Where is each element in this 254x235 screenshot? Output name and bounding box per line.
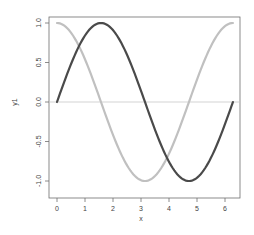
x-axis-title: x: [139, 215, 143, 222]
x-tick-label: 3: [139, 205, 143, 212]
y-axis-ticks: -1.0-0.50.00.51.0: [35, 18, 49, 187]
x-tick-label: 4: [167, 205, 171, 212]
x-tick-label: 2: [111, 205, 115, 212]
y-tick-label: -0.5: [35, 135, 42, 147]
line-chart: 0123456 -1.0-0.50.00.51.0 x y1: [0, 0, 254, 235]
x-axis-ticks: 0123456: [55, 198, 227, 212]
y-tick-label: 1.0: [35, 18, 42, 28]
x-tick-label: 5: [195, 205, 199, 212]
y-tick-label: 0.5: [35, 58, 42, 68]
y-tick-label: 0.0: [35, 97, 42, 107]
y-tick-label: -1.0: [35, 175, 42, 187]
x-tick-label: 0: [55, 205, 59, 212]
y-axis-title: y1: [11, 98, 19, 106]
x-tick-label: 6: [223, 205, 227, 212]
x-tick-label: 1: [83, 205, 87, 212]
